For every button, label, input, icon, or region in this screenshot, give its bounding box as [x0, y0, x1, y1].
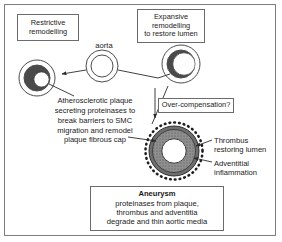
- box-aneurysm: Aneurysm proteinases from plaque, thromb…: [90, 186, 224, 231]
- remodelling-aneurysm-diagram: Restrictive remodelling Expansive remode…: [0, 0, 282, 242]
- box-over-compensation: Over-compensation?: [158, 98, 234, 113]
- plaque-line-5: plaque fibrous cap: [32, 135, 158, 145]
- restored-lumen: [162, 139, 186, 163]
- aorta-vessel-graphic: [86, 50, 118, 82]
- expansive-vessel-graphic: [162, 45, 200, 83]
- label-adventitial-inflammation: Adventitial inflammation: [214, 159, 280, 178]
- adventitial-line-1: Adventitial: [214, 159, 280, 168]
- plaque-line-3: break barriers to SMC: [32, 116, 158, 126]
- expansive-line-3: to restore lumen: [144, 30, 197, 39]
- aneurysm-heading: Aneurysm: [138, 190, 175, 199]
- leader-thrombus: [196, 140, 212, 146]
- plaque-line-1: Atherosclerotic plaque: [32, 96, 158, 106]
- thrombus-line-2: restoring lumen: [214, 145, 280, 154]
- plaque-line-2: secreting proteinases to: [32, 106, 158, 116]
- aneurysm-line-3: degrade and thin aortic media: [107, 218, 207, 227]
- label-aorta: aorta: [84, 41, 124, 50]
- over-compensation-label: Over-compensation?: [162, 101, 231, 110]
- label-atherosclerotic-plaque: Atherosclerotic plaque secreting protein…: [32, 96, 158, 145]
- leader-plaque-to-restrictive: [49, 84, 74, 96]
- box-restrictive-remodelling: Restrictive remodelling: [17, 14, 79, 41]
- aorta-text: aorta: [84, 41, 124, 50]
- thrombus-line-1: Thrombus: [214, 136, 280, 145]
- adventitial-line-2: inflammation: [214, 168, 280, 177]
- restrictive-line-2: remodelling: [29, 28, 67, 37]
- arrow-aorta-to-restrictive: [62, 70, 86, 74]
- restrictive-vessel-graphic: [19, 60, 55, 96]
- plaque-line-4: migration and remodel: [32, 126, 158, 136]
- line-aorta-to-expansive: [118, 70, 158, 78]
- label-thrombus: Thrombus restoring lumen: [214, 136, 280, 155]
- box-expansive-remodelling: Expansive remodelling to restore lumen: [137, 9, 205, 43]
